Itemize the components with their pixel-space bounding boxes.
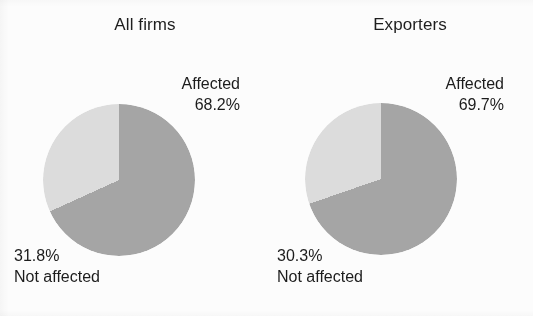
callout-affected-label-all-firms: Affected: [182, 73, 240, 94]
callout-affected-value-exporters: 69.7%: [446, 94, 504, 115]
callout-not-affected-all-firms: 31.8% Not affected: [14, 245, 100, 287]
callout-affected-exporters: Affected 69.7%: [446, 73, 504, 115]
callout-not-affected-exporters: 30.3% Not affected: [277, 245, 363, 287]
pie-slices-all-firms: [43, 104, 195, 256]
callout-not-affected-label-exporters: Not affected: [277, 266, 363, 287]
pie-chart-figure: All firms Affected 68.2% 31.8% Not affec…: [0, 0, 533, 316]
callout-affected-all-firms: Affected 68.2%: [182, 73, 240, 115]
chart-panel-exporters: Exporters Affected 69.7% 30.3% Not affec…: [267, 0, 533, 316]
callout-affected-value-all-firms: 68.2%: [182, 94, 240, 115]
pie-exporters: [305, 103, 457, 255]
callout-not-affected-value-exporters: 30.3%: [277, 245, 363, 266]
callout-not-affected-value-all-firms: 31.8%: [14, 245, 100, 266]
chart-panel-all-firms: All firms Affected 68.2% 31.8% Not affec…: [0, 0, 266, 316]
pie-slices-exporters: [305, 103, 457, 255]
panel-title-exporters: Exporters: [277, 15, 533, 35]
pie-all-firms: [43, 104, 195, 256]
callout-affected-label-exporters: Affected: [446, 73, 504, 94]
panel-title-all-firms: All firms: [12, 15, 278, 35]
callout-not-affected-label-all-firms: Not affected: [14, 266, 100, 287]
